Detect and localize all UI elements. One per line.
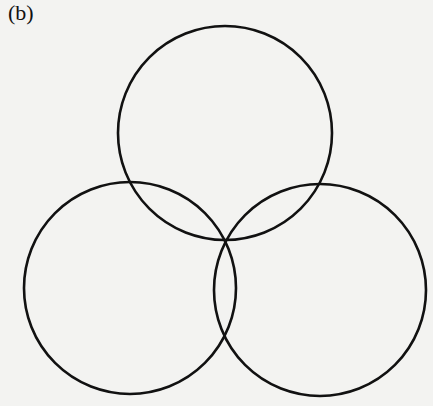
figure-canvas: (b) (0, 0, 433, 406)
circle-bottom-left (24, 182, 236, 394)
circle-bottom-right (214, 184, 426, 396)
circle-top (118, 26, 332, 240)
three-circles-diagram (0, 0, 433, 406)
